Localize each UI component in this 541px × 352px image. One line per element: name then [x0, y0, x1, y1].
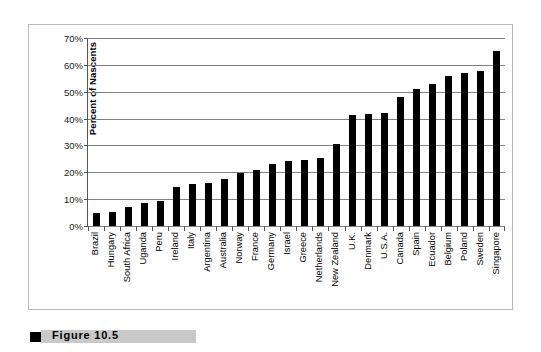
x-axis-label: Brazil [91, 232, 100, 255]
x-axis-label: Uganda [139, 232, 148, 265]
y-tick-label: 70% [64, 33, 83, 44]
bar-chart: Percent of Nascents 70%60%50%40%30%20%10… [29, 25, 514, 311]
x-tick-mark [136, 226, 137, 231]
y-tick-label: 50% [64, 86, 83, 97]
bar-slot [345, 38, 361, 226]
x-axis-label: Ecuador [428, 232, 437, 267]
bar [493, 51, 500, 226]
x-label-slot: Netherlands [312, 232, 328, 307]
x-axis-label: U.S.A. [380, 232, 389, 259]
x-tick-mark [489, 226, 490, 231]
bar [93, 213, 100, 226]
x-tick-mark [88, 226, 89, 231]
x-tick-mark [328, 226, 329, 231]
x-tick-mark [216, 226, 217, 231]
x-tick-slot [345, 226, 361, 231]
bar-slot [216, 38, 232, 226]
bar [477, 71, 484, 226]
bar-slot [200, 38, 216, 226]
x-tick-mark [345, 226, 346, 231]
x-label-slot: Italy [184, 232, 200, 307]
x-tick-mark [280, 226, 281, 231]
y-tick-label: 30% [64, 140, 83, 151]
y-tick-label: 0% [69, 221, 83, 232]
bar-slot [104, 38, 120, 226]
bar-slot [441, 38, 457, 226]
x-axis-label: Israel [284, 232, 293, 255]
x-label-slot: Argentina [200, 232, 216, 307]
bar-slot [152, 38, 168, 226]
bar-slot [377, 38, 393, 226]
x-label-slot: Brazil [88, 232, 104, 307]
x-tick-slot [280, 226, 296, 231]
bar [157, 201, 164, 226]
x-label-slot: Ireland [168, 232, 184, 307]
x-axis-label: Australia [220, 232, 229, 268]
x-axis-label: Greece [300, 232, 309, 263]
x-label-slot: Denmark [361, 232, 377, 307]
x-label-slot: Sweden [473, 232, 489, 307]
x-tick-mark [248, 226, 249, 231]
x-axis-label: Ireland [172, 232, 181, 260]
bar [173, 187, 180, 226]
figure-frame: Percent of Nascents 70%60%50%40%30%20%10… [28, 24, 513, 310]
bar-slot [457, 38, 473, 226]
bar [285, 161, 292, 226]
bar-slot [168, 38, 184, 226]
y-tick-label: 40% [64, 113, 83, 124]
x-tick-slot [264, 226, 280, 231]
x-tick-mark [184, 226, 185, 231]
x-tick-slot [296, 226, 312, 231]
bar [269, 164, 276, 226]
bar [141, 203, 148, 226]
x-label-slot: Norway [232, 232, 248, 307]
x-tick-slot [88, 226, 104, 231]
bar [317, 158, 324, 226]
x-axis-label: Argentina [204, 232, 213, 272]
bar [413, 89, 420, 227]
x-axis-label: Hungary [107, 232, 116, 267]
bar [333, 144, 340, 226]
x-tick-mark [393, 226, 394, 231]
x-label-slot: Peru [152, 232, 168, 307]
x-tick-slot [216, 226, 232, 231]
x-tick-slot [393, 226, 409, 231]
bar-slot [264, 38, 280, 226]
x-axis-label: Belgium [444, 232, 453, 266]
x-tick-slot [473, 226, 489, 231]
bar [429, 84, 436, 226]
x-axis-label: Germany [268, 232, 277, 270]
x-tick-mark [264, 226, 265, 231]
caption-row [30, 330, 41, 344]
x-tick-mark [296, 226, 297, 231]
x-label-slot: Germany [264, 232, 280, 307]
x-tick-slot [104, 226, 120, 231]
bar-series [88, 38, 505, 226]
bar [461, 73, 468, 226]
x-axis-ticks [88, 226, 505, 231]
bar [109, 212, 116, 226]
x-axis-labels: BrazilHungarySouth AfricaUgandaPeruIrela… [88, 232, 505, 307]
bar-slot [120, 38, 136, 226]
bar-slot [248, 38, 264, 226]
bar-slot [361, 38, 377, 226]
bar [189, 184, 196, 226]
x-axis-label: New Zealand [332, 232, 341, 287]
x-tick-slot [232, 226, 248, 231]
x-tick-slot [361, 226, 377, 231]
x-tick-mark [104, 226, 105, 231]
x-tick-slot [136, 226, 152, 231]
x-tick-slot [168, 226, 184, 231]
x-tick-mark [409, 226, 410, 231]
bar [205, 183, 212, 226]
bar [365, 114, 372, 226]
x-tick-slot [184, 226, 200, 231]
bar-slot [328, 38, 344, 226]
x-tick-slot [457, 226, 473, 231]
x-axis-tick-end [504, 226, 505, 231]
y-tick-label: 20% [64, 167, 83, 178]
bar [221, 179, 228, 226]
bar-slot [280, 38, 296, 226]
x-axis-label: U.K. [348, 232, 357, 250]
x-tick-slot [152, 226, 168, 231]
